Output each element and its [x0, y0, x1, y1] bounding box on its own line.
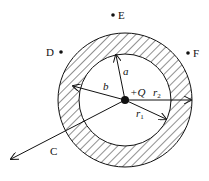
label-charge: +Q: [130, 86, 145, 98]
label-D: D: [46, 46, 54, 58]
label-b: b: [103, 80, 109, 92]
point-F-dot: [186, 51, 190, 55]
label-a: a: [123, 65, 129, 77]
label-E: E: [118, 9, 125, 21]
spherical-shell-diagram: E D F C a b +Q r2 r1: [0, 0, 209, 181]
point-E-dot: [111, 13, 115, 17]
point-D-dot: [59, 50, 63, 54]
label-C: C: [50, 145, 57, 157]
label-F: F: [193, 47, 199, 59]
point-charge: [121, 96, 129, 104]
